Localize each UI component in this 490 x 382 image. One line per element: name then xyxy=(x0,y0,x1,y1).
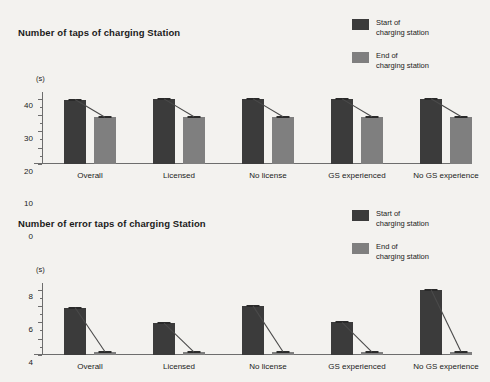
y-tick-label: 20 xyxy=(24,166,33,175)
legend-label-start: Start of charging station xyxy=(376,18,429,37)
error-bar xyxy=(158,322,171,324)
error-bar xyxy=(277,351,290,353)
y-tick: 2 xyxy=(38,339,42,340)
bar-start xyxy=(242,306,264,355)
error-bar xyxy=(99,116,112,118)
legend-label-start: Start of charging station xyxy=(376,209,429,228)
bar-group: Overall xyxy=(64,283,116,355)
y-tick-minor xyxy=(40,107,43,108)
error-bar xyxy=(188,116,201,118)
y-tick-label: 4 xyxy=(29,357,33,366)
end-swatch-icon xyxy=(352,243,369,254)
error-bar xyxy=(425,289,438,291)
error-bar xyxy=(247,305,260,307)
start-swatch-icon xyxy=(352,210,369,221)
bar-start xyxy=(331,322,353,355)
legend-item-start: Start of charging station xyxy=(352,18,486,37)
bar-group: No license xyxy=(242,92,294,164)
bar-end xyxy=(361,352,383,355)
y-tick-minor xyxy=(40,298,43,299)
bar-start xyxy=(242,99,264,164)
end-swatch-icon xyxy=(352,52,369,63)
error-bar xyxy=(366,116,379,118)
error-bar xyxy=(455,116,468,118)
y-tick: 10 xyxy=(38,148,42,149)
legend-item-start: Start of charging station xyxy=(352,209,486,228)
x-category-label: No GS experience xyxy=(413,171,478,180)
y-tick-minor xyxy=(40,314,43,315)
bar-group: Overall xyxy=(64,92,116,164)
y-tick-label: 40 xyxy=(24,101,33,110)
bar-end xyxy=(94,117,116,164)
y-tick: 8 xyxy=(38,290,42,291)
legend-error-taps: Start of charging station End of chargin… xyxy=(352,209,486,275)
y-tick: 4 xyxy=(38,322,42,323)
x-category-label: No license xyxy=(249,171,286,180)
bar-start xyxy=(64,308,86,355)
error-bar xyxy=(188,351,201,353)
y-axis-line xyxy=(42,92,43,164)
y-tick-minor xyxy=(40,156,43,157)
page-title-error-taps: Number of error taps of charging Station xyxy=(18,218,206,229)
y-tick: 40 xyxy=(38,99,42,100)
error-bar xyxy=(455,351,468,353)
bar-group: No GS experience xyxy=(420,92,472,164)
y-tick: 20 xyxy=(38,131,42,132)
x-category-label: GS experienced xyxy=(328,362,385,371)
x-category-label: Overall xyxy=(77,171,102,180)
y-tick-minor xyxy=(40,123,43,124)
bar-group: Licensed xyxy=(153,92,205,164)
error-bar xyxy=(158,98,171,100)
bar-end xyxy=(94,352,116,355)
y-tick: 6 xyxy=(38,306,42,307)
bar-end xyxy=(450,117,472,164)
error-bar xyxy=(99,351,112,353)
error-bar xyxy=(69,307,82,309)
error-bar xyxy=(247,98,260,100)
bar-start xyxy=(153,323,175,355)
y-tick: 30 xyxy=(38,115,42,116)
bar-group: No GS experience xyxy=(420,283,472,355)
bar-group: GS experienced xyxy=(331,92,383,164)
y-tick-minor xyxy=(40,347,43,348)
chart-taps: Number of taps of charging Station Start… xyxy=(0,0,490,191)
start-swatch-icon xyxy=(352,19,369,30)
y-tick-label: 8 xyxy=(29,292,33,301)
error-bar xyxy=(425,98,438,100)
error-bar xyxy=(336,98,349,100)
y-axis-unit-taps: (s) xyxy=(36,74,45,83)
bar-group: Licensed xyxy=(153,283,205,355)
error-bar xyxy=(69,99,82,101)
bar-end xyxy=(183,117,205,164)
page-title-taps: Number of taps of charging Station xyxy=(18,27,180,38)
plot-area-taps: 010203040OverallLicensedNo licenseGS exp… xyxy=(42,92,472,164)
chart-error-taps: Number of error taps of charging Station… xyxy=(0,191,490,382)
x-category-label: No license xyxy=(249,362,286,371)
plot-area-error-taps: 02468OverallLicensedNo licenseGS experie… xyxy=(42,283,472,355)
bar-end xyxy=(361,117,383,164)
legend-item-end: End of charging station xyxy=(352,51,486,70)
y-tick-minor xyxy=(40,139,43,140)
x-category-label: Licensed xyxy=(163,171,195,180)
y-tick-minor xyxy=(40,330,43,331)
error-bar xyxy=(277,116,290,118)
legend-label-end: End of charging station xyxy=(376,51,429,70)
bar-end xyxy=(450,352,472,355)
bar-group: No license xyxy=(242,283,294,355)
y-axis-unit-error-taps: (s) xyxy=(36,265,45,274)
y-tick: 0 xyxy=(38,164,42,165)
bar-start xyxy=(420,99,442,164)
y-tick-label: 30 xyxy=(24,133,33,142)
legend-taps: Start of charging station End of chargin… xyxy=(352,18,486,84)
error-bar xyxy=(336,321,349,323)
bar-start xyxy=(153,99,175,164)
x-category-label: GS experienced xyxy=(328,171,385,180)
y-tick: 0 xyxy=(38,355,42,356)
bar-start xyxy=(331,99,353,164)
legend-label-end: End of charging station xyxy=(376,242,429,261)
bar-start xyxy=(64,100,86,164)
bar-end xyxy=(183,352,205,355)
x-category-label: Overall xyxy=(77,362,102,371)
x-category-label: No GS experience xyxy=(413,362,478,371)
bar-end xyxy=(272,352,294,355)
